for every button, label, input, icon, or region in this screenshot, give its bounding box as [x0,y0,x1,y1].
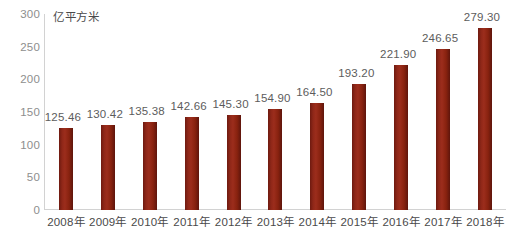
y-tick-label: 0 [2,204,40,216]
bar[interactable] [268,109,282,210]
y-tick-label: 200 [2,73,40,85]
x-tick-label: 2018年 [459,213,511,229]
bar-value-label: 279.30 [452,11,512,23]
bar[interactable] [185,117,199,210]
bar-group: 145.30 [213,14,255,210]
bar[interactable] [436,49,450,210]
bar-group: 135.38 [129,14,171,210]
bar-group: 246.65 [422,14,464,210]
bar-chart: 050100150200250300 亿平方米 125.46130.42135.… [0,0,513,239]
bar-group: 142.66 [171,14,213,210]
bar[interactable] [394,65,408,210]
x-axis-tick-labels: 2008年2009年2010年2011年2012年2013年2014年2015年… [45,213,506,235]
bar-group: 164.50 [296,14,338,210]
y-tick-label: 50 [2,171,40,183]
bar[interactable] [352,84,366,210]
bar[interactable] [101,125,115,210]
y-tick-label: 300 [2,8,40,20]
bar-value-label: 193.20 [326,67,386,79]
y-tick-label: 100 [2,139,40,151]
bar[interactable] [478,28,492,210]
bar[interactable] [143,122,157,210]
bar-value-label: 246.65 [410,32,470,44]
bar-group: 193.20 [338,14,380,210]
bar[interactable] [59,128,73,210]
bar-value-label: 164.50 [284,86,344,98]
bar[interactable] [227,115,241,210]
plot-area: 125.46130.42135.38142.66145.30154.90164.… [45,14,506,210]
bar-value-label: 221.90 [368,48,428,60]
bar-group: 279.30 [464,14,506,210]
bar-group: 154.90 [255,14,297,210]
bar[interactable] [310,103,324,210]
y-tick-label: 250 [2,41,40,53]
